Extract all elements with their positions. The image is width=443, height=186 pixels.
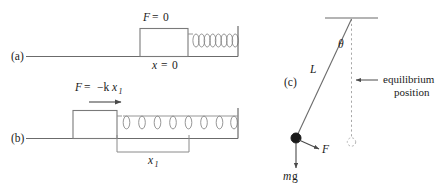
panel-a: (a) F = 0 x = 0 xyxy=(11,11,238,71)
force-a-symbol: F xyxy=(142,11,151,23)
weight-gravity-symbol: g xyxy=(292,170,298,183)
block-b xyxy=(73,111,117,139)
force-a-value: 0 xyxy=(163,11,169,23)
physics-figure: (a) F = 0 x = 0 xyxy=(0,0,443,186)
displacement-b-subscript: 1 xyxy=(155,160,159,169)
position-a-symbol: x xyxy=(151,59,158,71)
force-b-symbol: F xyxy=(74,81,83,93)
block-a xyxy=(140,29,188,57)
pendulum-bob-c xyxy=(291,133,301,143)
panel-a-label: (a) xyxy=(11,50,24,63)
force-b-variable: x xyxy=(111,81,118,93)
force-label-c: F xyxy=(321,143,330,155)
displacement-b-symbol: x xyxy=(147,154,154,166)
panel-b: (b) F = −k x 1 x 1 xyxy=(11,81,238,169)
panel-b-label: (b) xyxy=(11,132,25,145)
force-label-a: F = 0 xyxy=(142,11,169,23)
equilibrium-label-line1: equilibrium xyxy=(383,73,435,85)
force-a-equals: = xyxy=(152,11,159,23)
panel-c-label: (c) xyxy=(284,76,297,89)
angle-label-c: θ xyxy=(338,38,344,50)
position-label-a: x = 0 xyxy=(151,59,178,71)
weight-label-c: m g xyxy=(283,170,298,183)
force-b-equals: = xyxy=(84,81,91,93)
force-label-b: F = −k x 1 xyxy=(74,81,123,96)
force-b-subscript: 1 xyxy=(119,87,123,96)
displacement-bracket-b xyxy=(117,135,189,152)
position-a-value: 0 xyxy=(172,59,178,71)
spring-a xyxy=(188,34,238,47)
displacement-label-b: x 1 xyxy=(147,154,159,169)
equilibrium-label-c: equilibrium position xyxy=(383,73,435,98)
panel-c: (c) θ L F m g equilibrium position xyxy=(283,18,435,183)
equilibrium-label-line2: position xyxy=(394,86,430,98)
force-arrow-c xyxy=(299,140,319,149)
pendulum-string-c xyxy=(296,19,352,138)
force-b-coefficient: −k xyxy=(97,81,109,93)
weight-mass-symbol: m xyxy=(283,170,291,182)
position-a-equals: = xyxy=(161,59,168,71)
equilibrium-bob-ghost-c xyxy=(347,138,355,146)
figure-canvas: (a) F = 0 x = 0 xyxy=(0,0,443,186)
length-label-c: L xyxy=(309,63,316,75)
spring-b xyxy=(117,116,238,129)
